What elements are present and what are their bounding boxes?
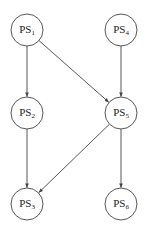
node-ps6: PS6 xyxy=(105,188,137,220)
node-ps4: PS4 xyxy=(105,14,137,46)
node-ps3: PS3 xyxy=(11,188,43,220)
process-graph: PS1PS4PS2PS5PS3PS6 xyxy=(0,0,144,235)
edge-ps5-to-ps3 xyxy=(39,124,110,192)
node-ps2: PS2 xyxy=(11,97,43,129)
node-ps5: PS5 xyxy=(105,97,137,129)
nodes: PS1PS4PS2PS5PS3PS6 xyxy=(11,14,137,220)
edge-ps1-to-ps5 xyxy=(39,41,109,102)
node-ps1: PS1 xyxy=(11,14,43,46)
